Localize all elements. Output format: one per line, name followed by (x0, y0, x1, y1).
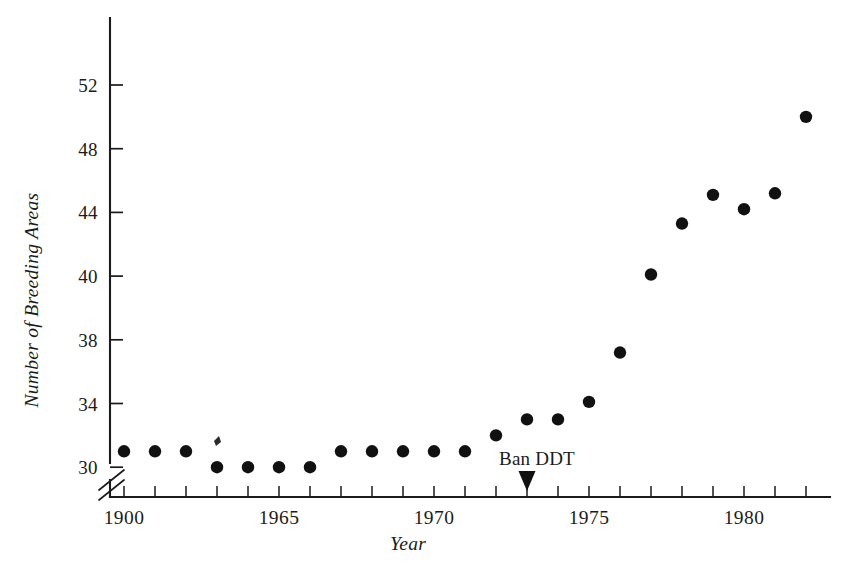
data-point (459, 445, 471, 457)
data-point (521, 413, 533, 425)
x-tick-label: 1965 (259, 507, 300, 528)
data-point (397, 445, 409, 457)
data-point (242, 461, 254, 473)
data-point (490, 429, 502, 441)
y-tick-label: 48 (78, 139, 98, 160)
data-point (800, 111, 812, 123)
y-tick-label: 44 (78, 202, 98, 223)
y-axis-title: Number of Breeding Areas (21, 193, 42, 409)
data-point (614, 346, 626, 358)
y-tick-label: 52 (78, 75, 98, 96)
y-tick-label: 38 (78, 330, 98, 351)
data-point (304, 461, 316, 473)
breeding-areas-scatter-plot: 52484440383430 19001965197019751980 Ban … (0, 0, 847, 574)
y-tick-label: 40 (78, 266, 98, 287)
data-point (118, 445, 130, 457)
data-point (335, 445, 347, 457)
data-point (428, 445, 440, 457)
data-point (366, 445, 378, 457)
y-axis-break-icon (99, 470, 124, 500)
y-tick-group: 52484440383430 (78, 75, 123, 478)
data-point (180, 445, 192, 457)
down-triangle-icon (519, 471, 536, 491)
y-tick-label: 34 (78, 394, 98, 415)
x-tick-label: 1975 (569, 507, 610, 528)
data-point (769, 187, 781, 199)
data-point (583, 396, 595, 408)
x-tick-group: 19001965197019751980 (104, 486, 806, 528)
y-axis (99, 18, 124, 500)
data-point (738, 203, 750, 215)
annotation-ban-ddt: Ban DDT (499, 448, 575, 491)
x-tick-label: 1900 (104, 507, 145, 528)
x-tick-label: 1970 (414, 507, 455, 528)
x-axis-title: Year (390, 533, 426, 554)
scan-artifact-mark (214, 436, 221, 446)
data-point (676, 217, 688, 229)
data-point (552, 413, 564, 425)
x-tick-label: 1980 (724, 507, 765, 528)
data-point (707, 189, 719, 201)
chart-figure: 52484440383430 19001965197019751980 Ban … (0, 0, 847, 574)
y-tick-label: 30 (78, 457, 98, 478)
data-point (273, 461, 285, 473)
data-point (645, 268, 657, 280)
annotation-label: Ban DDT (499, 448, 575, 469)
data-point-group (118, 111, 812, 474)
data-point (211, 461, 223, 473)
data-point (149, 445, 161, 457)
